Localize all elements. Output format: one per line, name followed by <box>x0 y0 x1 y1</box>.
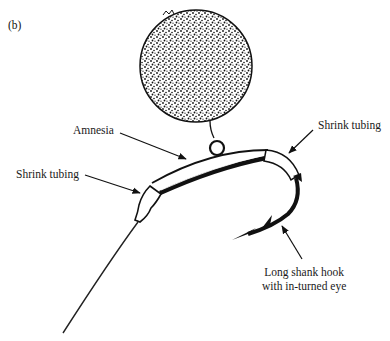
label-shrink-tubing-left: Shrink tubing <box>16 168 79 181</box>
arrow-shrink-right <box>289 130 313 153</box>
hook-shank <box>160 158 266 193</box>
float-stem <box>210 121 214 138</box>
shrink-tubing-right <box>264 150 299 180</box>
label-shrink-tubing-right: Shrink tubing <box>318 119 381 132</box>
label-hook-line2: with in-turned eye <box>262 279 346 293</box>
label-hook-line1: Long shank hook <box>262 265 346 279</box>
arrow-hook <box>282 226 302 259</box>
shrink-tubing-left <box>135 186 161 222</box>
long-shank-hook <box>232 173 302 240</box>
swivel-ring <box>210 141 224 155</box>
amnesia-line <box>152 150 268 183</box>
arrow-amnesia <box>120 133 186 159</box>
leader-line <box>63 222 138 333</box>
float-ball <box>140 10 252 122</box>
arrow-shrink-left <box>85 175 140 193</box>
label-long-shank-hook: Long shank hook with in-turned eye <box>262 265 346 293</box>
label-amnesia: Amnesia <box>73 124 114 137</box>
